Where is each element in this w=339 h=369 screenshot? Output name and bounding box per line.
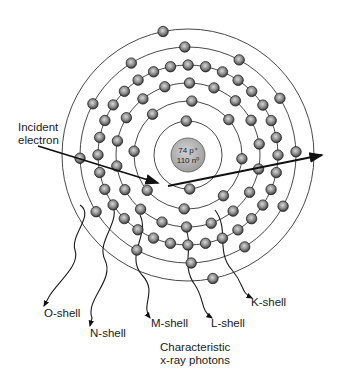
electron (132, 245, 142, 255)
electron (181, 116, 191, 126)
electron (148, 67, 158, 77)
caption-line1: Characteristic (160, 341, 230, 354)
nucleus-protons: 74 p⁺ (178, 146, 198, 155)
electron (247, 86, 257, 96)
electron (165, 238, 175, 248)
electron (273, 150, 283, 160)
electron (95, 167, 105, 177)
electron (91, 207, 101, 217)
electron (271, 132, 281, 142)
electron (233, 75, 243, 85)
electron (157, 217, 167, 227)
electron (108, 100, 118, 110)
electron (228, 206, 238, 216)
k-shell-label: K-shell (251, 296, 286, 309)
electron (100, 184, 110, 194)
incident-label-line1: Incident (18, 121, 59, 134)
electron (200, 238, 210, 248)
electron (179, 204, 189, 214)
electron (246, 214, 256, 224)
electron (208, 273, 218, 283)
electron (230, 96, 240, 106)
electron (147, 109, 157, 119)
n-shell-label: N-shell (90, 327, 126, 340)
electron (120, 185, 130, 195)
caption-line2: x-ray photons (160, 354, 230, 367)
electron (217, 233, 227, 243)
nucleus-neutrons: 110 n⁰ (177, 156, 199, 165)
electron (180, 42, 190, 52)
electron (181, 222, 191, 232)
electron (126, 58, 136, 68)
electron (217, 67, 227, 77)
electron (246, 115, 256, 125)
electron (148, 233, 158, 243)
electron (224, 114, 234, 124)
electron (165, 61, 175, 71)
electron (160, 82, 170, 92)
incident-electron-label: Incident electron (18, 121, 59, 147)
electron (266, 184, 276, 194)
electron (206, 218, 216, 228)
electron (185, 184, 195, 194)
electron (112, 136, 122, 146)
electron (240, 242, 250, 252)
electron (88, 99, 98, 109)
electron (258, 200, 268, 210)
incident-label-line2: electron (18, 134, 59, 147)
electron (233, 225, 243, 235)
electron (119, 213, 129, 223)
electron (142, 185, 152, 195)
electron (95, 132, 105, 142)
electron (183, 60, 193, 70)
o-shell-label: O-shell (44, 307, 80, 320)
electron (158, 26, 168, 36)
electron (108, 200, 118, 210)
electron (133, 225, 143, 235)
electron (133, 75, 143, 85)
electron (119, 86, 129, 96)
electron (209, 83, 219, 93)
electron (183, 240, 193, 250)
electron (278, 201, 288, 211)
l-shell-label: L-shell (211, 317, 245, 330)
electron (237, 154, 247, 164)
electron (138, 94, 148, 104)
photon-path-0 (44, 205, 85, 306)
nucleus: 74 p⁺ 110 n⁰ (171, 138, 205, 172)
photon-path-1 (90, 200, 114, 326)
electron (184, 78, 194, 88)
m-shell-label: M-shell (151, 317, 188, 330)
electron (121, 113, 131, 123)
electron (234, 55, 244, 65)
electron (187, 96, 197, 106)
electron (135, 204, 145, 214)
electron (291, 147, 301, 157)
electron (129, 146, 139, 156)
electron (254, 139, 264, 149)
caption: Characteristic x-ray photons (160, 341, 230, 367)
electron (244, 187, 254, 197)
electron (186, 258, 196, 268)
electron (266, 115, 276, 125)
electron (275, 93, 285, 103)
electron (218, 191, 228, 201)
electron (200, 61, 210, 71)
electron (271, 167, 281, 177)
electron (100, 115, 110, 125)
electron (258, 100, 268, 110)
electron (93, 150, 103, 160)
